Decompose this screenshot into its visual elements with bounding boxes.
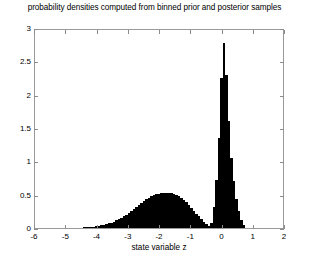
x-tick-mark <box>284 225 285 229</box>
y-tick-mark <box>280 229 284 230</box>
plot-area <box>34 29 284 229</box>
y-tick-label: 2 <box>1 92 31 100</box>
y-tick-label: 1 <box>1 158 31 166</box>
y-tick-mark <box>34 129 38 130</box>
y-tick-label: 2.5 <box>1 58 31 66</box>
x-tick-mark <box>253 225 254 229</box>
y-tick-mark <box>280 162 284 163</box>
y-tick-label: 3 <box>1 25 31 33</box>
x-tick-mark <box>159 225 160 229</box>
y-tick-mark <box>280 96 284 97</box>
x-axis-label: state variable z <box>34 243 284 253</box>
x-tick-mark <box>190 30 191 34</box>
x-tick-mark <box>97 225 98 229</box>
x-tick-label: -2 <box>147 232 171 241</box>
y-tick-mark <box>34 62 38 63</box>
y-tick-label-wrap: 2 <box>0 92 31 100</box>
y-tick-mark <box>34 162 38 163</box>
y-tick-label-wrap: 2.5 <box>0 58 31 66</box>
figure-canvas: probability densities computed from binn… <box>0 0 309 265</box>
y-tick-mark <box>280 62 284 63</box>
x-tick-label: -1 <box>178 232 202 241</box>
x-tick-label: 2 <box>272 232 296 241</box>
histogram-bar <box>243 225 246 228</box>
y-tick-mark <box>34 229 38 230</box>
x-tick-mark <box>34 225 35 229</box>
chart-title: probability densities computed from binn… <box>0 3 309 13</box>
y-tick-label: 0.5 <box>1 192 31 200</box>
x-tick-mark <box>284 30 285 34</box>
x-tick-label: -4 <box>85 232 109 241</box>
x-tick-label: 0 <box>210 232 234 241</box>
x-tick-mark <box>222 30 223 34</box>
y-tick-mark <box>280 196 284 197</box>
y-tick-label-wrap: 3 <box>0 25 31 33</box>
x-tick-mark <box>222 225 223 229</box>
x-tick-label: 1 <box>241 232 265 241</box>
x-tick-mark <box>190 225 191 229</box>
x-tick-mark <box>159 30 160 34</box>
y-tick-mark <box>34 196 38 197</box>
x-tick-label: -5 <box>53 232 77 241</box>
x-tick-mark <box>253 30 254 34</box>
y-tick-label-wrap: 1 <box>0 158 31 166</box>
y-tick-label: 1.5 <box>1 125 31 133</box>
y-tick-mark <box>280 129 284 130</box>
x-tick-mark <box>65 30 66 34</box>
x-tick-mark <box>128 225 129 229</box>
x-tick-mark <box>97 30 98 34</box>
x-tick-mark <box>128 30 129 34</box>
x-tick-label: -6 <box>22 232 46 241</box>
x-tick-label: -3 <box>116 232 140 241</box>
y-tick-mark <box>34 96 38 97</box>
histogram-bars-layer <box>35 30 283 228</box>
y-tick-label-wrap: 0.5 <box>0 192 31 200</box>
y-tick-label-wrap: 1.5 <box>0 125 31 133</box>
x-tick-mark <box>65 225 66 229</box>
x-tick-mark <box>34 30 35 34</box>
